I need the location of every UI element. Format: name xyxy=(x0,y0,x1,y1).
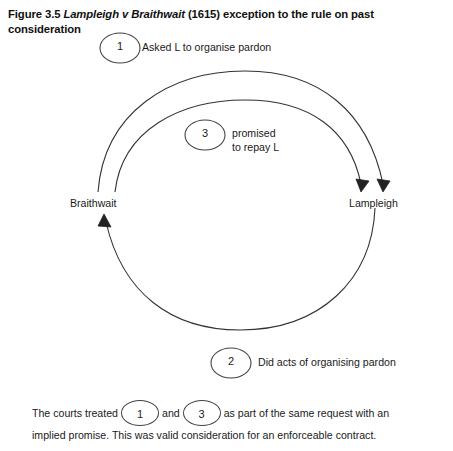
step-number-2: 2 xyxy=(211,355,251,367)
node-label-braithwait: Braithwait xyxy=(70,196,117,210)
arrowhead-lampleigh-inner xyxy=(356,179,369,192)
bottom-note-part1: The courts treated xyxy=(32,407,118,419)
step-label-3: promised to repay L xyxy=(232,126,279,154)
bottom-note-part3: as part of the same request with an xyxy=(224,407,389,419)
bottom-note-circle-1: 1 xyxy=(121,400,159,426)
arrowhead-braithwait xyxy=(98,214,111,227)
step-label-1: Asked L to organise pardon xyxy=(142,40,271,54)
node-label-lampleigh: Lampleigh xyxy=(349,196,398,210)
arc-bottom-return xyxy=(106,208,375,330)
step-label-3-line1: promised xyxy=(232,127,276,139)
bottom-note: The courts treated1and3as part of the sa… xyxy=(32,400,442,444)
bottom-note-circle-3: 3 xyxy=(183,400,221,426)
bottom-note-part2: and xyxy=(162,407,180,419)
arrowhead-lampleigh-outer xyxy=(377,179,390,192)
step-label-2: Did acts of organising pardon xyxy=(258,355,396,369)
bottom-note-line2: implied promise. This was valid consider… xyxy=(32,426,442,444)
step-number-1: 1 xyxy=(100,40,140,52)
step-label-3-line2: to repay L xyxy=(232,140,279,154)
diagram-canvas xyxy=(0,0,453,451)
step-number-3: 3 xyxy=(185,127,225,139)
